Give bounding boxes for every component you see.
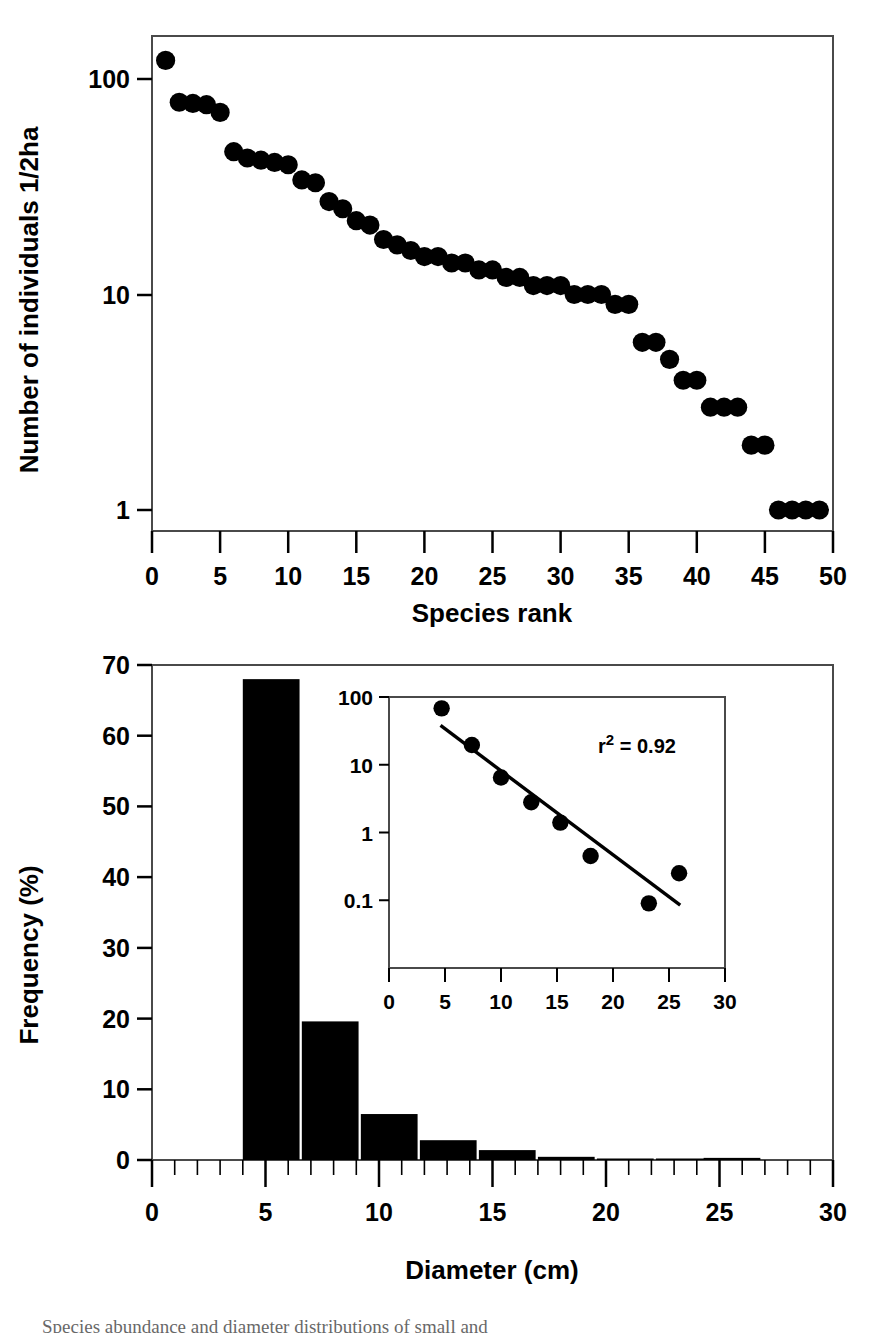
panel-a-xtick-40: 40 [683, 562, 711, 590]
panel-b-x-axis-title-wrap: Diameter (cm) [0, 1245, 874, 1305]
panel-a-point [755, 436, 774, 455]
panel-a-data-points [156, 51, 829, 520]
inset-ytick-1: 1 [361, 822, 373, 845]
panel-a-point [279, 155, 298, 174]
inset-r-symbol: r [598, 735, 606, 757]
panel-b-ytick-50: 50 [102, 792, 130, 820]
panel-b-x-tick-labels: 0 5 10 15 20 25 30 [145, 1198, 847, 1226]
panel-a-y-ticks [137, 79, 152, 510]
inset-point [493, 769, 509, 785]
inset-y-tick-labels: 100 10 1 0.1 [338, 686, 373, 912]
panel-b-ytick-70: 70 [102, 651, 130, 679]
panel-a-xtick-5: 5 [213, 562, 227, 590]
inset-point [523, 794, 539, 810]
inset-ytick-10: 10 [350, 754, 373, 777]
inset-x-tick-labels: 0 5 10 15 20 25 30 [383, 990, 737, 1013]
panel-a-x-axis-title: Species rank [412, 598, 573, 628]
panel-b-y-tick-labels: 70 60 50 40 30 20 10 0 [102, 651, 130, 1174]
panel-a-ytick-100: 100 [88, 65, 130, 93]
inset-point [464, 737, 480, 753]
panel-a-xtick-50: 50 [819, 562, 847, 590]
panel-b-bar [704, 1158, 761, 1160]
panel-a-point [619, 295, 638, 314]
panel-b-ytick-60: 60 [102, 722, 130, 750]
panel-a-point [687, 371, 706, 390]
panel-a-xtick-20: 20 [410, 562, 438, 590]
inset-point [552, 814, 568, 830]
panel-a-point [660, 350, 679, 369]
inset-r-squared-annotation: r2 = 0.92 [598, 731, 676, 757]
panel-a-x-tick-labels: 0 5 10 15 20 25 30 35 40 45 50 [145, 562, 847, 590]
panel-a-point [211, 103, 230, 122]
panel-b-x-ticks [152, 1160, 833, 1187]
inset-r-exponent: 2 [606, 731, 614, 748]
inset-x-ticks [389, 968, 725, 982]
inset-point [433, 700, 449, 716]
inset-xtick-0: 0 [383, 990, 395, 1013]
panel-b-xtick-5: 5 [259, 1198, 273, 1226]
panel-a-point [156, 51, 175, 70]
panel-b-bar [243, 679, 300, 1160]
panel-b-x-axis-title: Diameter (cm) [405, 1255, 578, 1285]
panel-b-bar [302, 1021, 359, 1160]
panel-a-point [306, 173, 325, 192]
panel-b-bar [420, 1140, 477, 1160]
panel-a-xtick-45: 45 [751, 562, 779, 590]
panel-b-diameter-frequency-chart: Frequency (%) 70 60 50 40 30 20 10 0 [0, 635, 874, 1315]
inset-ytick-100: 100 [338, 686, 373, 709]
panel-a-point [360, 215, 379, 234]
panel-a-rank-abundance-chart: Number of individuals 1/2ha 100 10 1 [0, 0, 874, 610]
inset-log-frequency-chart: 100 10 1 0.1 0 5 10 15 20 25 [338, 686, 737, 1013]
panel-b-bar [361, 1114, 418, 1160]
inset-r-value: = 0.92 [614, 735, 676, 757]
panel-b-xtick-15: 15 [479, 1198, 507, 1226]
panel-b-xtick-10: 10 [365, 1198, 393, 1226]
inset-point [582, 848, 598, 864]
inset-xtick-25: 25 [657, 990, 681, 1013]
panel-a-xtick-15: 15 [342, 562, 370, 590]
panel-a-point [646, 333, 665, 352]
inset-y-ticks [379, 697, 389, 900]
panel-a-point [810, 500, 829, 519]
panel-b-ytick-30: 30 [102, 934, 130, 962]
panel-a-ytick-10: 10 [102, 281, 130, 309]
inset-xtick-15: 15 [545, 990, 569, 1013]
inset-point [641, 895, 657, 911]
panel-a-ytick-1: 1 [116, 496, 130, 524]
panel-b-xtick-30: 30 [819, 1198, 847, 1226]
panel-a-point [728, 398, 747, 417]
panel-a-y-axis-title: Number of individuals 1/2ha [14, 126, 44, 473]
panel-b-ytick-20: 20 [102, 1005, 130, 1033]
inset-xtick-5: 5 [439, 990, 451, 1013]
panel-b-ytick-0: 0 [116, 1146, 130, 1174]
panel-b-xtick-0: 0 [145, 1198, 159, 1226]
panel-a-x-ticks [152, 531, 833, 553]
panel-b-ytick-10: 10 [102, 1075, 130, 1103]
inset-xtick-30: 30 [713, 990, 736, 1013]
panel-b-bar [597, 1159, 654, 1161]
panel-b-bar [538, 1157, 595, 1160]
panel-b-y-ticks [137, 665, 152, 1160]
panel-b-xtick-25: 25 [706, 1198, 734, 1226]
panel-b-y-axis-title: Frequency (%) [14, 865, 44, 1044]
panel-b-bars [243, 679, 761, 1160]
panel-b-xtick-20: 20 [592, 1198, 620, 1226]
panel-b-ytick-40: 40 [102, 863, 130, 891]
panel-a-xtick-0: 0 [145, 562, 159, 590]
inset-ytick-0.1: 0.1 [344, 889, 374, 912]
panel-a-xtick-25: 25 [479, 562, 507, 590]
panel-a-xtick-10: 10 [274, 562, 302, 590]
panel-b-bar [479, 1150, 536, 1160]
figure-caption-partial: Species abundance and diameter distribut… [42, 1316, 842, 1333]
inset-point [671, 865, 687, 881]
panel-a-plot-frame [152, 36, 833, 531]
figure-root: Number of individuals 1/2ha 100 10 1 [0, 0, 874, 1333]
panel-a-xtick-30: 30 [547, 562, 575, 590]
panel-a-xtick-35: 35 [615, 562, 643, 590]
inset-xtick-10: 10 [489, 990, 512, 1013]
inset-xtick-20: 20 [601, 990, 624, 1013]
